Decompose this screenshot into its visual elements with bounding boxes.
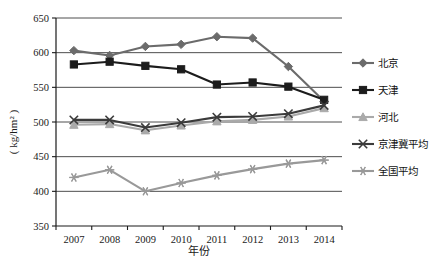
x-tick-label: 2010	[171, 234, 192, 245]
y-axis-title: ( kg/hm² )	[7, 110, 20, 155]
series-point-marker	[142, 62, 149, 69]
series-point-marker	[213, 81, 220, 88]
legend-swatch-marker	[359, 86, 366, 93]
chart-container: 350400450500550600650 200720082009201020…	[0, 0, 430, 263]
y-tick-label: 400	[33, 186, 49, 197]
legend-label: 北京	[378, 57, 398, 69]
y-tick-label: 600	[33, 47, 49, 58]
x-axis-title: 年份	[188, 244, 210, 257]
y-tick-label: 450	[33, 151, 49, 162]
series-point-marker	[249, 79, 256, 86]
x-tick-label: 2008	[99, 234, 120, 245]
x-tick-label: 2011	[207, 234, 228, 245]
y-tick-label: 550	[33, 82, 49, 93]
y-tick-label: 500	[33, 117, 49, 128]
y-tick-label: 350	[33, 221, 49, 232]
legend-label: 全国平均	[378, 165, 418, 177]
x-tick-label: 2014	[314, 234, 336, 245]
x-tick-label: 2013	[278, 234, 299, 245]
series-point-marker	[178, 66, 185, 73]
x-tick-label: 2009	[135, 234, 156, 245]
series-point-marker	[70, 61, 77, 68]
y-tick-label: 650	[33, 13, 49, 24]
line-chart: 350400450500550600650 200720082009201020…	[0, 0, 430, 263]
legend-label: 河北	[378, 112, 399, 123]
legend-label: 京津冀平均	[378, 138, 428, 150]
legend-label: 天津	[378, 85, 399, 96]
series-point-marker	[106, 58, 113, 65]
series-point-marker	[285, 83, 292, 90]
x-tick-label: 2012	[242, 234, 263, 245]
x-tick-label: 2007	[63, 234, 84, 245]
